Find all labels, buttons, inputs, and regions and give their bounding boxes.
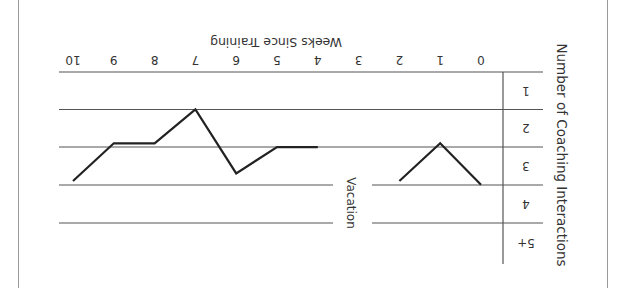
line-chart: 012345678910 12345+ Weeks Since Training…	[0, 0, 627, 288]
y-axis-title: Number of Coaching Interactions	[554, 43, 570, 266]
y-tick-label: 1	[522, 84, 530, 98]
y-tick-label: 2	[522, 121, 530, 135]
x-tick-label: 6	[232, 53, 240, 67]
y-tick-label: 3	[522, 159, 530, 173]
x-tick-label: 9	[110, 53, 118, 67]
y-tick-label: 4	[522, 197, 530, 211]
data-line	[73, 109, 318, 181]
x-tick-label: 0	[477, 53, 485, 67]
x-tick-label: 3	[355, 53, 363, 67]
x-tick-label: 1	[436, 53, 444, 67]
vacation-annotation: Vacation	[344, 177, 358, 229]
x-tick-label: 10	[65, 53, 80, 67]
data-line	[399, 143, 481, 184]
y-tick-labels: 12345+	[517, 84, 535, 251]
y-tick-label: 5+	[517, 236, 535, 250]
x-tick-label: 4	[314, 53, 322, 67]
x-tick-label: 8	[151, 53, 159, 67]
x-tick-label: 5	[273, 53, 281, 67]
x-tick-label: 2	[396, 53, 404, 67]
x-axis-title: Weeks Since Training	[210, 35, 342, 50]
x-tick-labels: 012345678910	[65, 53, 484, 67]
x-tick-label: 7	[192, 53, 200, 67]
